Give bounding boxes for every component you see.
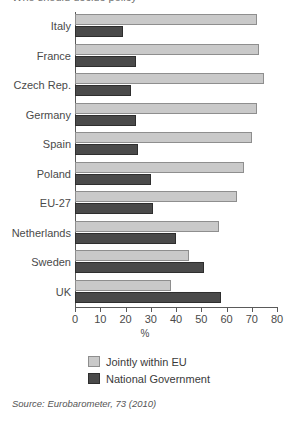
bar [75, 280, 171, 291]
x-tick [126, 307, 127, 312]
legend-label: National Government [106, 373, 210, 385]
category-label: Spain [0, 138, 71, 150]
x-tick [100, 307, 101, 312]
category-label: Czech Rep. [0, 79, 71, 91]
category-label: EU-27 [0, 197, 71, 209]
legend-swatch-icon [88, 373, 100, 384]
bar [75, 132, 252, 143]
x-axis-title: % [0, 328, 290, 339]
bar [75, 103, 257, 114]
bar [75, 73, 264, 84]
bar [75, 250, 189, 261]
category-label: Poland [0, 168, 71, 180]
bar [75, 56, 136, 67]
x-tick [151, 307, 152, 312]
source-suffix: , 73 (2010) [110, 398, 156, 409]
bar [75, 262, 204, 273]
x-tick [277, 307, 278, 312]
x-tick [252, 307, 253, 312]
bar-chart: ItalyFranceCzech Rep.GermanySpainPolandE… [0, 0, 290, 340]
bar [75, 162, 244, 173]
legend-item-national-government: National Government [88, 371, 210, 386]
legend-label: Jointly within EU [106, 356, 187, 368]
bar [75, 144, 138, 155]
x-tick-label: 80 [262, 313, 290, 325]
x-tick [75, 307, 76, 312]
bar [75, 44, 259, 55]
category-label: France [0, 50, 71, 62]
x-tick [227, 307, 228, 312]
bar [75, 233, 176, 244]
bar [75, 221, 219, 232]
chart-legend: Jointly within EU National Government [88, 354, 210, 388]
bar [75, 191, 237, 202]
source-publication: Eurobarometer [47, 398, 110, 409]
category-label: Sweden [0, 256, 71, 268]
bar [75, 203, 153, 214]
category-label: Germany [0, 109, 71, 121]
legend-swatch-icon [88, 356, 100, 367]
legend-item-jointly-within-eu: Jointly within EU [88, 354, 210, 369]
category-label: Netherlands [0, 227, 71, 239]
bar [75, 115, 136, 126]
bar [75, 292, 221, 303]
bar [75, 174, 151, 185]
source-note: Source: Eurobarometer, 73 (2010) [12, 398, 156, 409]
x-tick [176, 307, 177, 312]
bar [75, 26, 123, 37]
category-label: Italy [0, 20, 71, 32]
bar [75, 14, 257, 25]
category-label: UK [0, 286, 71, 298]
bar [75, 85, 131, 96]
x-tick [201, 307, 202, 312]
source-prefix: Source: [12, 398, 47, 409]
